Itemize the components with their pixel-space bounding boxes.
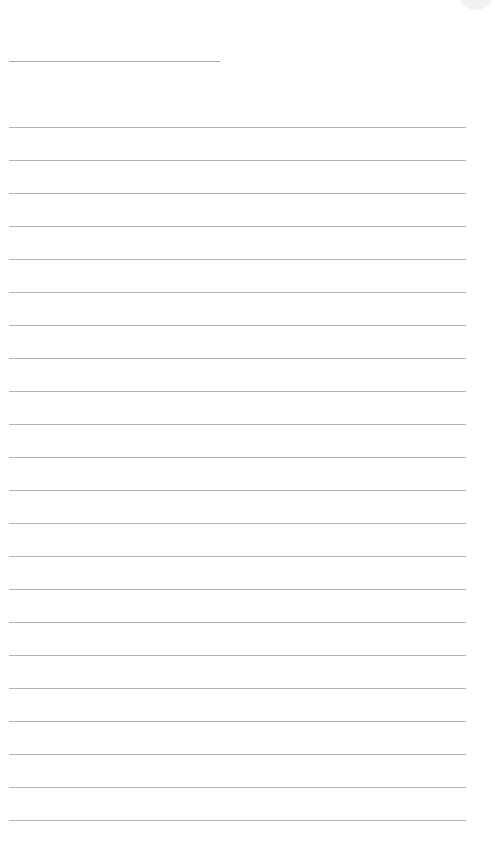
ruled-line[interactable]: [9, 490, 466, 491]
ruled-line[interactable]: [9, 787, 466, 788]
ruled-line[interactable]: [9, 556, 466, 557]
ruled-line[interactable]: [9, 721, 466, 722]
ruled-line[interactable]: [9, 622, 466, 623]
ruled-line[interactable]: [9, 193, 466, 194]
ruled-line[interactable]: [9, 754, 466, 755]
ruled-line[interactable]: [9, 127, 466, 128]
ruled-line[interactable]: [9, 226, 466, 227]
ruled-line[interactable]: [9, 523, 466, 524]
ruled-lines-area[interactable]: [9, 0, 466, 856]
ruled-line[interactable]: [9, 292, 466, 293]
ruled-line[interactable]: [9, 391, 466, 392]
ruled-line[interactable]: [9, 820, 466, 821]
ruled-line[interactable]: [9, 424, 466, 425]
ruled-line[interactable]: [9, 325, 466, 326]
ruled-line[interactable]: [9, 589, 466, 590]
ruled-line[interactable]: [9, 457, 466, 458]
ruled-line[interactable]: [9, 160, 466, 161]
ruled-line[interactable]: [9, 655, 466, 656]
ruled-line[interactable]: [9, 358, 466, 359]
ruled-line[interactable]: [9, 259, 466, 260]
ruled-line[interactable]: [9, 688, 466, 689]
